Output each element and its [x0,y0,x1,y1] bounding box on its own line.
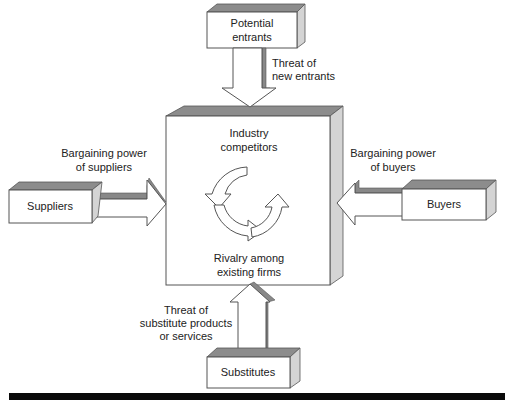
buyers-power-label-line1: Bargaining power [350,147,436,159]
buyers-label: Buyers [427,198,462,210]
buyers-power-label-line2: of buyers [370,161,416,173]
center-box-side-face [330,106,343,285]
substitutes-box-top-face [207,348,300,357]
potential-entrants-box: Potential entrants [207,4,305,48]
suppliers-power-arrow [96,178,166,226]
new-entrants-arrow [222,48,276,107]
suppliers-power-label-line2: of suppliers [76,161,133,173]
entrants-box-side-face [297,4,305,48]
buyers-arrow-shade [355,180,404,193]
substitutes-threat-label-line1: Threat of [164,304,209,316]
substitutes-label: Substitutes [221,366,276,378]
rivalry-label-line1: Rivalry among [214,252,284,264]
new-entrants-arrow-body [222,48,276,107]
industry-label-line2: competitors [221,141,278,153]
substitutes-threat-label-line3: or services [159,330,213,342]
entrants-box-top-face [207,4,305,12]
new-entrants-label-line1: Threat of [272,57,317,69]
new-entrants-label-line2: new entrants [272,70,335,82]
industry-competitors-box: Industry competitors Rivalry among exist… [166,106,343,285]
substitutes-threat-label-line2: substitute products [140,317,233,329]
suppliers-box: Suppliers [9,182,102,223]
entrants-label-line2: entrants [232,31,272,43]
buyers-power-arrow [337,180,404,225]
entrants-label-line1: Potential [231,17,274,29]
substitutes-threat-arrow [230,282,275,350]
buyers-box: Buyers [402,180,496,220]
footer-bar [9,393,505,400]
center-box-top-face [166,106,343,116]
substitutes-box: Substitutes [207,348,300,388]
industry-label-line1: Industry [229,127,269,139]
five-forces-diagram: Industry competitors Rivalry among exist… [0,0,505,400]
buyers-box-top-face [402,180,496,189]
suppliers-power-label-line1: Bargaining power [61,147,147,159]
suppliers-label: Suppliers [27,200,73,212]
rivalry-label-line2: existing firms [217,266,282,278]
suppliers-box-top-face [9,182,102,190]
